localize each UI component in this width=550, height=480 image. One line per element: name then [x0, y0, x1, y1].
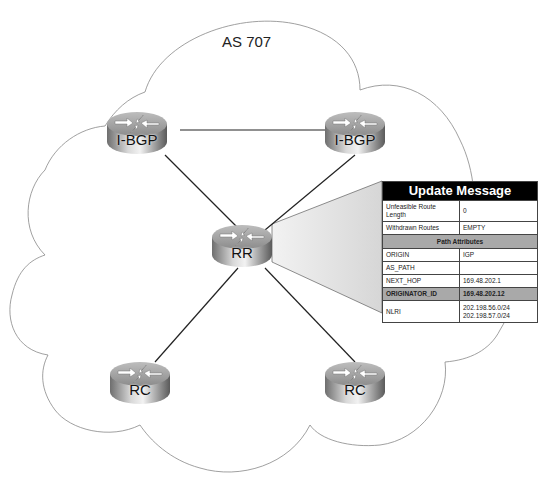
section-title: Path Attributes: [383, 235, 538, 249]
router-label: RC: [110, 381, 170, 398]
field-name: NLRI: [383, 301, 460, 323]
router-label: I-BGP: [107, 131, 167, 148]
table-row: AS_PATH: [383, 262, 538, 275]
update-message-table: Update Message Unfeasible Route Length 0…: [382, 181, 538, 323]
table-row-nlri: NLRI 202.198.56.0/24 202.198.57.0/24: [383, 301, 538, 323]
field-name: NEXT_HOP: [383, 275, 460, 288]
field-name: Withdrawn Routes: [383, 222, 460, 235]
router-label: RR: [212, 244, 272, 261]
field-value: 202.198.56.0/24 202.198.57.0/24: [460, 301, 538, 323]
table-row: Unfeasible Route Length 0: [383, 201, 538, 222]
table-row: NEXT_HOP 169.48.202.1: [383, 275, 538, 288]
link-rr-rcleft: [155, 268, 238, 362]
router-label: RC: [325, 381, 385, 398]
router-ibgp-right[interactable]: I-BGP: [325, 112, 385, 156]
table-row-highlighted: ORIGINATOR_ID 169.48.202.12: [383, 288, 538, 301]
router-ibgp-left[interactable]: I-BGP: [107, 112, 167, 156]
field-name: Unfeasible Route Length: [383, 201, 460, 222]
router-rr[interactable]: RR: [212, 225, 272, 269]
table-title: Update Message: [383, 182, 538, 201]
field-value: EMPTY: [460, 222, 538, 235]
router-label: I-BGP: [325, 131, 385, 148]
field-value: 0: [460, 201, 538, 222]
field-value: 169.48.202.1: [460, 275, 538, 288]
nlri-prefix: 202.198.57.0/24: [463, 312, 534, 320]
field-value: 169.48.202.12: [460, 288, 538, 301]
field-value: [460, 262, 538, 275]
router-rc-left[interactable]: RC: [110, 362, 170, 406]
field-name: ORIGINATOR_ID: [383, 288, 460, 301]
table-row: Withdrawn Routes EMPTY: [383, 222, 538, 235]
table-row: ORIGIN IGP: [383, 249, 538, 262]
field-value: IGP: [460, 249, 538, 262]
as-label: AS 707: [222, 33, 271, 50]
table-header-row: Update Message: [383, 182, 538, 201]
nlri-prefix: 202.198.56.0/24: [463, 304, 534, 312]
field-name: AS_PATH: [383, 262, 460, 275]
field-name: ORIGIN: [383, 249, 460, 262]
link-ibgpleft-rr: [165, 155, 240, 230]
router-rc-right[interactable]: RC: [325, 362, 385, 406]
section-row: Path Attributes: [383, 235, 538, 249]
